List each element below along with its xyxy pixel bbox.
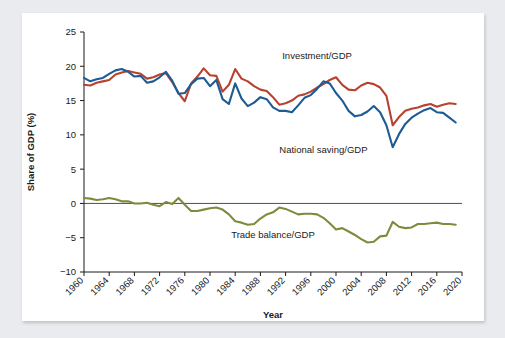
y-tick-label: 20 — [65, 61, 76, 72]
x-axis-tick-labels: 1960196419681972197619801984198819921996… — [63, 275, 464, 298]
x-axis-title: Year — [263, 309, 283, 320]
y-axis-title: Share of GDP (%) — [25, 113, 36, 191]
x-tick-label: 1976 — [163, 275, 186, 298]
x-tick-label: 1960 — [63, 275, 86, 298]
y-tick-label: 0 — [71, 198, 76, 209]
y-tick-label: 10 — [65, 129, 76, 140]
series-annotations: Investment/GDPNational saving/GDPTrade b… — [231, 50, 367, 240]
x-tick-label: 1984 — [214, 275, 237, 298]
series-lines — [84, 68, 456, 242]
y-tick-label: 25 — [65, 26, 76, 37]
x-tick-label: 1996 — [289, 275, 312, 298]
x-tick-label: 2008 — [365, 275, 388, 298]
x-tick-label: 2012 — [390, 275, 413, 298]
x-tick-label: 2000 — [315, 275, 338, 298]
x-tick-label: 1972 — [138, 275, 161, 298]
y-tick-label: −5 — [65, 232, 76, 243]
y-tick-label: 5 — [71, 164, 76, 175]
series-label: National saving/GDP — [279, 144, 367, 155]
y-axis-ticks — [80, 32, 84, 272]
y-tick-label: −10 — [60, 266, 76, 277]
series-label: Trade balance/GDP — [231, 229, 315, 240]
chart-page: 2520151050−5−10 196019641968197219761980… — [0, 0, 505, 338]
y-tick-label: 15 — [65, 95, 76, 106]
x-tick-label: 1992 — [264, 275, 287, 298]
x-tick-label: 2004 — [340, 275, 363, 298]
x-tick-label: 1980 — [189, 275, 212, 298]
x-tick-label: 1964 — [88, 275, 111, 298]
x-tick-label: 1968 — [113, 275, 136, 298]
series-line — [84, 69, 456, 147]
x-tick-label: 1988 — [239, 275, 262, 298]
chart-figure: 2520151050−5−10 196019641968197219761980… — [0, 0, 505, 338]
x-tick-label: 2020 — [441, 275, 464, 298]
y-axis-tick-labels: 2520151050−5−10 — [60, 26, 76, 277]
x-tick-label: 2016 — [415, 275, 438, 298]
series-label: Investment/GDP — [282, 50, 352, 61]
